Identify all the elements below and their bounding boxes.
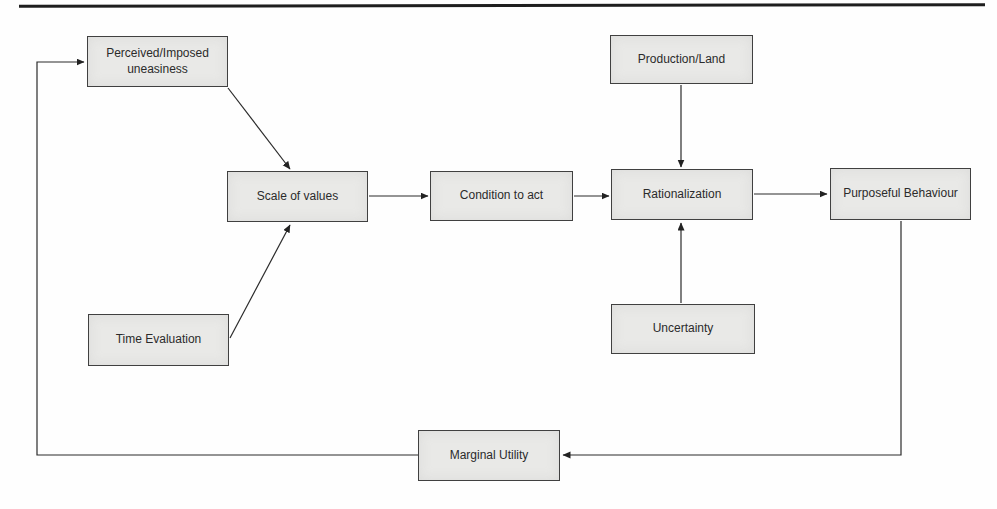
node-time-evaluation: Time Evaluation — [88, 314, 229, 366]
node-uncertainty: Uncertainty — [611, 304, 755, 354]
node-purposeful-behaviour: Purposeful Behaviour — [830, 168, 971, 220]
node-scale-of-values: Scale of values — [227, 171, 368, 222]
diagram-page: Perceived/Imposed uneasiness Time Evalua… — [0, 0, 997, 509]
node-production-land: Production/Land — [610, 35, 753, 84]
node-label: Scale of values — [257, 189, 338, 205]
edge-time-to-scale — [230, 225, 290, 338]
edge-perceived-to-scale — [228, 88, 290, 169]
node-perceived-imposed-uneasiness: Perceived/Imposed uneasiness — [87, 36, 228, 87]
node-marginal-utility: Marginal Utility — [418, 430, 560, 481]
node-label: Purposeful Behaviour — [843, 186, 958, 202]
node-label: Rationalization — [643, 187, 722, 203]
node-label: Production/Land — [638, 52, 725, 68]
node-label: Marginal Utility — [450, 448, 529, 464]
node-label: Uncertainty — [653, 321, 714, 337]
edge-marginal-to-perceived — [37, 62, 418, 455]
node-label: Perceived/Imposed uneasiness — [94, 46, 221, 77]
node-rationalization: Rationalization — [611, 169, 753, 220]
node-label: Condition to act — [460, 188, 543, 204]
node-condition-to-act: Condition to act — [430, 171, 573, 221]
node-label: Time Evaluation — [116, 332, 202, 348]
